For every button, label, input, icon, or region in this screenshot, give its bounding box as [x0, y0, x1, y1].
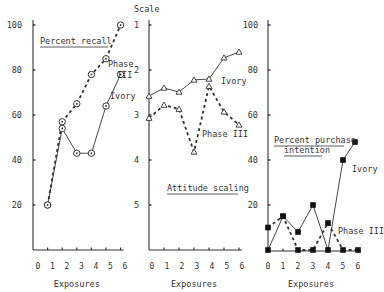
x-tick-label: 4 [326, 262, 331, 271]
x-tick-label: 6 [123, 262, 128, 271]
triangle-marker-icon [161, 102, 167, 107]
triangle-marker-icon [236, 49, 242, 54]
triangle-marker-icon [146, 93, 152, 98]
y-tick-label: 20 [248, 200, 258, 210]
x-tick-label: 1 [281, 262, 286, 271]
square-marker-icon [280, 213, 286, 219]
dot-marker-icon [105, 105, 107, 107]
y-tick-label: 40 [12, 155, 22, 165]
scale-axis-title: Scale [134, 4, 160, 14]
chart-panel-2: 123450123456Exposures [134, 20, 245, 289]
purchase-title: Percent purchase [274, 135, 356, 145]
dot-marker-icon [76, 103, 78, 105]
phase-iii-label: III [117, 70, 132, 80]
x-tick-label: 0 [36, 262, 41, 271]
y-tick-label: 40 [248, 155, 258, 165]
square-marker-icon [265, 247, 271, 253]
ivory-label: Ivory [221, 76, 247, 86]
dot-marker-icon [91, 152, 93, 154]
square-marker-icon [325, 220, 331, 226]
y-tick-label: 100 [243, 20, 258, 30]
triangle-marker-icon [146, 115, 152, 120]
phase-iii-label: Phase III [338, 226, 384, 236]
square-marker-icon [325, 247, 331, 253]
y-tick-label: 80 [12, 65, 22, 75]
x-tick-label: 6 [356, 262, 361, 271]
y-tick-label: 1 [134, 20, 139, 30]
phase-iii-label: Phase [108, 59, 134, 69]
series-line-phase-iii [48, 25, 121, 205]
triangle-marker-icon [206, 83, 212, 88]
y-tick-label: 60 [248, 110, 258, 120]
x-tick-label: 6 [240, 262, 245, 271]
dot-marker-icon [91, 74, 93, 76]
dot-marker-icon [61, 128, 63, 130]
triangle-marker-icon [176, 106, 182, 111]
x-tick-label: 0 [150, 262, 155, 271]
x-tick-label: 5 [225, 262, 230, 271]
x-axis-title: Exposures [171, 279, 217, 289]
ivory-label: Ivory [110, 91, 136, 101]
series-line-phase-iii [149, 86, 239, 152]
dot-marker-icon [76, 152, 78, 154]
square-marker-icon [265, 225, 271, 231]
x-tick-label: 5 [341, 262, 346, 271]
x-tick-label: 0 [266, 262, 271, 271]
x-axis-title: Exposures [288, 279, 334, 289]
x-axis-title: Exposures [54, 279, 100, 289]
x-tick-label: 5 [108, 262, 113, 271]
square-marker-icon [295, 229, 301, 235]
ivory-label: Ivory [352, 164, 378, 174]
square-marker-icon [355, 247, 361, 253]
attitude-title: Attitude scaling [167, 183, 249, 193]
dot-marker-icon [47, 204, 49, 206]
triangle-marker-icon [191, 149, 197, 154]
recall-title: Percent recall [40, 36, 112, 46]
x-tick-label: 3 [311, 262, 316, 271]
x-tick-label: 4 [210, 262, 215, 271]
x-tick-label: 3 [195, 262, 200, 271]
x-tick-label: 1 [165, 262, 170, 271]
y-tick-label: 20 [12, 200, 22, 210]
phase-iii-label: Phase III [202, 129, 248, 139]
square-marker-icon [340, 247, 346, 253]
y-tick-label: 3 [134, 110, 139, 120]
x-tick-label: 4 [94, 262, 99, 271]
dot-marker-icon [120, 24, 122, 26]
y-tick-label: 100 [7, 20, 22, 30]
y-tick-label: 2 [134, 65, 139, 75]
x-tick-label: 3 [79, 262, 84, 271]
square-marker-icon [310, 202, 316, 208]
y-tick-label: 80 [248, 65, 258, 75]
x-tick-label: 2 [65, 262, 70, 271]
x-tick-label: 2 [180, 262, 185, 271]
dot-marker-icon [105, 58, 107, 60]
square-marker-icon [295, 247, 301, 253]
y-tick-label: 5 [134, 200, 139, 210]
purchase-title: intention [284, 145, 330, 155]
square-marker-icon [310, 247, 316, 253]
square-marker-icon [340, 157, 346, 163]
triangle-marker-icon [161, 85, 167, 90]
x-tick-label: 1 [50, 262, 55, 271]
y-tick-label: 60 [12, 110, 22, 120]
dot-marker-icon [61, 121, 63, 123]
chart-figure: 100806040200123456Exposures123450123456E… [0, 0, 384, 292]
y-tick-label: 4 [134, 155, 139, 165]
x-tick-label: 2 [296, 262, 301, 271]
